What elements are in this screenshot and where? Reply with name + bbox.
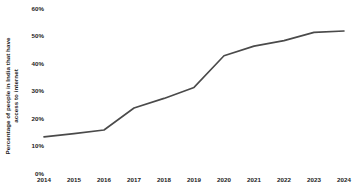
x-axis-tick-label: 2016 (91, 176, 117, 183)
x-axis-tick-label: 2014 (31, 176, 57, 183)
x-axis-tick-label: 2019 (181, 176, 207, 183)
plot-area (44, 9, 344, 174)
x-axis-tick-label: 2017 (121, 176, 147, 183)
y-axis-tick-labels: 0%10%20%30%40%50%60% (20, 0, 44, 191)
y-axis-title-text: Percentage of people in India that have … (4, 37, 20, 154)
y-axis-tick-label: 50% (22, 33, 44, 39)
y-axis-tick-label: 60% (22, 6, 44, 12)
y-axis-tick-label: 10% (22, 143, 44, 149)
x-axis-tick-labels: 2014201520162017201820192020202120222023… (44, 176, 344, 188)
x-axis-tick-label: 2022 (271, 176, 297, 183)
x-axis-tick-label: 2024 (331, 176, 352, 183)
y-axis-title-line-2: access to internet (12, 37, 20, 154)
y-axis-tick-label: 20% (22, 116, 44, 122)
data-series-line (44, 31, 344, 137)
x-axis-tick-label: 2023 (301, 176, 327, 183)
x-axis-tick-label: 2020 (211, 176, 237, 183)
y-axis-title-line-1: Percentage of people in India that have (4, 37, 12, 154)
y-axis-tick-label: 40% (22, 61, 44, 67)
plot-svg (44, 9, 344, 174)
x-axis-tick-label: 2015 (61, 176, 87, 183)
x-axis-tick-label: 2021 (241, 176, 267, 183)
x-axis-tick-label: 2018 (151, 176, 177, 183)
y-axis-tick-label: 30% (22, 88, 44, 94)
line-chart: Percentage of people in India that have … (0, 0, 352, 191)
